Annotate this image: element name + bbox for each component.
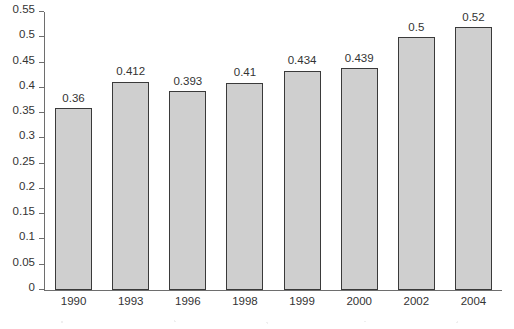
y-axis-tick-mark	[39, 137, 44, 138]
x-axis-label: 1999	[274, 296, 331, 308]
plot-area: 0.360.4120.3930.410.4340.4390.50.52	[45, 12, 502, 290]
y-axis-tick-label: 0.25	[13, 156, 35, 168]
y-axis-tick-label: 0.4	[19, 80, 35, 92]
bar-value-label: 0.439	[345, 53, 374, 65]
y-axis-tick-label: 0.35	[13, 105, 35, 117]
x-axis-line	[44, 290, 502, 291]
bar-slot: 0.5	[398, 12, 435, 290]
bar[interactable]	[341, 68, 378, 290]
y-axis-tick-mark	[39, 112, 44, 113]
y-axis-tick-label: 0	[29, 282, 35, 294]
y-axis-tick-label: 0.2	[19, 181, 35, 193]
bar-slot: 0.36	[55, 12, 92, 290]
y-axis-tick-mark	[39, 62, 44, 63]
y-axis-tick-label: 0.55	[13, 4, 35, 16]
bar[interactable]	[226, 83, 263, 290]
y-axis-tick-mark	[39, 36, 44, 37]
bar[interactable]	[112, 82, 149, 290]
bar[interactable]	[455, 27, 492, 290]
bar-value-label: 0.36	[62, 93, 84, 105]
bar-slot: 0.393	[169, 12, 206, 290]
y-axis-tick-label: 0.1	[19, 231, 35, 243]
y-axis-tick-label: 0.15	[13, 206, 35, 218]
bar[interactable]	[284, 71, 321, 290]
y-axis-tick-mark	[39, 87, 44, 88]
x-axis-label: 2000	[331, 296, 388, 308]
bar-value-label: 0.393	[173, 76, 202, 88]
y-axis-tick-mark	[39, 238, 44, 239]
bar[interactable]	[55, 108, 92, 290]
y-axis-tick-label: 0.3	[19, 130, 35, 142]
bar[interactable]	[169, 91, 206, 290]
x-axis-label: 1998	[216, 296, 273, 308]
x-axis-label: 2002	[388, 296, 445, 308]
bar-slot: 0.412	[112, 12, 149, 290]
bar-value-label: 0.41	[234, 67, 256, 79]
y-axis-tick-mark	[39, 289, 44, 290]
y-axis-tick-mark	[39, 188, 44, 189]
scan-artifact	[0, 318, 514, 326]
bar-value-label: 0.434	[288, 55, 317, 67]
bar-slot: 0.41	[226, 12, 263, 290]
x-axis-label: 1990	[45, 296, 102, 308]
y-axis-tick-label: 0.5	[19, 29, 35, 41]
bar-value-label: 0.5	[408, 22, 424, 34]
x-axis-label: 2004	[445, 296, 502, 308]
y-axis-tick-mark	[39, 163, 44, 164]
bar-slot: 0.52	[455, 12, 492, 290]
x-axis-label: 1993	[102, 296, 159, 308]
y-axis-tick-mark	[39, 11, 44, 12]
bar-value-label: 0.52	[462, 12, 484, 24]
y-axis-tick-mark	[39, 264, 44, 265]
bar-slot: 0.439	[341, 12, 378, 290]
y-axis-tick-label: 0.45	[13, 55, 35, 67]
bar[interactable]	[398, 37, 435, 290]
bar-value-label: 0.412	[116, 66, 145, 78]
x-axis-label: 1996	[159, 296, 216, 308]
bar-slot: 0.434	[284, 12, 321, 290]
y-axis-tick-mark	[39, 213, 44, 214]
bar-chart: 00.050.10.150.20.250.30.350.40.450.50.55…	[0, 0, 514, 329]
y-axis-tick-label: 0.05	[13, 257, 35, 269]
